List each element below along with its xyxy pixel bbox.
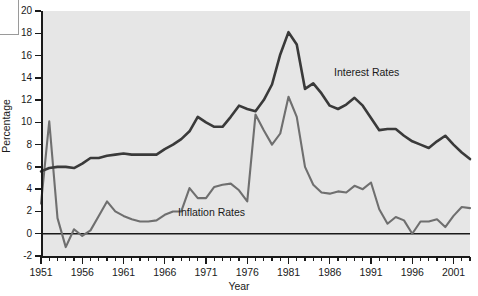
y-tick-mark — [35, 211, 41, 212]
x-tick-mark-minor — [238, 257, 239, 261]
x-tick-mark-minor — [172, 257, 173, 261]
y-tick-label: 16 — [8, 51, 32, 61]
x-tick-label: 1956 — [71, 266, 94, 278]
x-tick-mark-minor — [98, 257, 99, 261]
x-tick-mark-minor — [148, 257, 149, 261]
x-tick-mark-minor — [428, 257, 429, 261]
y-tick-label: -2 — [8, 251, 32, 261]
x-tick-mark-minor — [189, 257, 190, 261]
x-tick-mark-major — [40, 257, 41, 264]
x-tick-mark-minor — [131, 257, 132, 261]
x-tick-mark-minor — [139, 257, 140, 261]
x-tick-mark-minor — [90, 257, 91, 261]
y-tick-label-holder: 16 — [0, 51, 32, 61]
series-label-interest-rates: Interest Rates — [334, 66, 399, 78]
x-tick-mark-minor — [445, 257, 446, 261]
y-tick-label: 2 — [8, 206, 32, 216]
x-tick-mark-minor — [337, 257, 338, 261]
x-tick-mark-minor — [181, 257, 182, 261]
y-tick-label: 20 — [8, 6, 32, 16]
x-tick-mark-major — [412, 257, 413, 264]
y-tick-mark — [35, 233, 41, 234]
x-tick-label: 1966 — [153, 266, 176, 278]
x-tick-mark-major — [370, 257, 371, 264]
x-tick-mark-minor — [280, 257, 281, 261]
y-tick-label-holder: 4 — [0, 184, 32, 194]
x-tick-label: 1961 — [112, 266, 135, 278]
x-tick-mark-minor — [313, 257, 314, 261]
x-tick-mark-minor — [296, 257, 297, 261]
x-tick-label: 1986 — [318, 266, 341, 278]
y-tick-mark — [35, 144, 41, 145]
x-tick-mark-minor — [222, 257, 223, 261]
y-tick-label: 18 — [8, 28, 32, 38]
x-axis-title: Year — [0, 280, 478, 292]
x-tick-mark-minor — [115, 257, 116, 261]
x-tick-mark-minor — [156, 257, 157, 261]
y-tick-label-holder: 2 — [0, 206, 32, 216]
x-tick-mark-minor — [354, 257, 355, 261]
x-tick-label: 1971 — [195, 266, 218, 278]
x-tick-mark-minor — [106, 257, 107, 261]
x-tick-mark-major — [329, 257, 330, 264]
chart-figure: 20181614121086420-2 19511956196119661971… — [0, 0, 478, 296]
x-tick-mark-minor — [420, 257, 421, 261]
x-tick-label: 1991 — [360, 266, 383, 278]
x-tick-mark-minor — [271, 257, 272, 261]
x-tick-mark-minor — [214, 257, 215, 261]
series-label-inflation-rates: Inflation Rates — [178, 206, 245, 218]
x-tick-mark-minor — [197, 257, 198, 261]
x-tick-mark-minor — [255, 257, 256, 261]
y-tick-mark — [35, 33, 41, 34]
series-line-interest-rates — [41, 32, 470, 171]
series-line-inflation-rates — [41, 97, 470, 247]
x-tick-mark-minor — [387, 257, 388, 261]
x-tick-mark-minor — [230, 257, 231, 261]
x-tick-label: 1951 — [30, 266, 53, 278]
y-tick-mark — [35, 99, 41, 100]
series-canvas — [41, 11, 470, 256]
x-tick-mark-major — [82, 257, 83, 264]
x-tick-label: 1976 — [236, 266, 259, 278]
y-tick-mark — [35, 166, 41, 167]
x-tick-label: 2001 — [442, 266, 465, 278]
x-tick-mark-minor — [65, 257, 66, 261]
y-axis — [41, 11, 43, 256]
x-tick-mark-minor — [362, 257, 363, 261]
x-tick-mark-major — [164, 257, 165, 264]
x-tick-mark-minor — [73, 257, 74, 261]
x-tick-mark-major — [205, 257, 206, 264]
y-tick-mark — [35, 55, 41, 56]
x-tick-mark-minor — [304, 257, 305, 261]
y-tick-label-holder: -2 — [0, 251, 32, 261]
y-tick-label-holder: 0 — [0, 229, 32, 239]
y-tick-mark — [35, 122, 41, 123]
x-tick-mark-minor — [379, 257, 380, 261]
x-tick-mark-minor — [461, 257, 462, 261]
x-tick-mark-minor — [57, 257, 58, 261]
x-tick-mark-major — [247, 257, 248, 264]
x-tick-mark-major — [453, 257, 454, 264]
x-tick-mark-minor — [436, 257, 437, 261]
x-tick-mark-minor — [403, 257, 404, 261]
x-tick-mark-minor — [321, 257, 322, 261]
x-tick-mark-minor — [49, 257, 50, 261]
y-tick-mark — [35, 10, 41, 11]
plot-area — [41, 11, 470, 256]
y-tick-label-holder: 20 — [0, 6, 32, 16]
x-tick-mark-minor — [395, 257, 396, 261]
x-tick-mark-minor — [263, 257, 264, 261]
x-tick-mark-major — [123, 257, 124, 264]
x-tick-mark-minor — [469, 257, 470, 261]
y-tick-label: 4 — [8, 184, 32, 194]
x-tick-mark-major — [288, 257, 289, 264]
x-tick-label: 1996 — [401, 266, 424, 278]
y-tick-mark — [35, 77, 41, 78]
y-axis-title: Percentage — [0, 76, 12, 176]
x-tick-mark-minor — [346, 257, 347, 261]
x-tick-label: 1981 — [277, 266, 300, 278]
y-tick-label-holder: 18 — [0, 28, 32, 38]
y-tick-mark — [35, 188, 41, 189]
y-tick-label: 0 — [8, 229, 32, 239]
